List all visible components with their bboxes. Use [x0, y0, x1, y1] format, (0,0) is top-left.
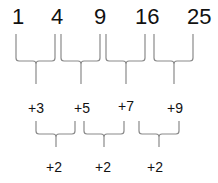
second-difference-1: +2	[46, 160, 62, 174]
difference-braces	[0, 0, 218, 183]
brace-4-5	[154, 34, 193, 84]
brace-d3-d4	[139, 121, 179, 147]
first-difference-3: +7	[118, 99, 134, 113]
first-difference-1: +3	[28, 101, 44, 115]
brace-d1-d2	[36, 121, 75, 147]
first-difference-2: +5	[74, 101, 90, 115]
first-difference-4: +9	[167, 101, 183, 115]
second-difference-3: +2	[147, 160, 163, 174]
brace-2-3	[61, 34, 100, 84]
brace-1-2	[16, 34, 55, 84]
brace-3-4	[106, 34, 145, 84]
brace-d2-d3	[84, 121, 124, 147]
second-difference-2: +2	[95, 160, 111, 174]
